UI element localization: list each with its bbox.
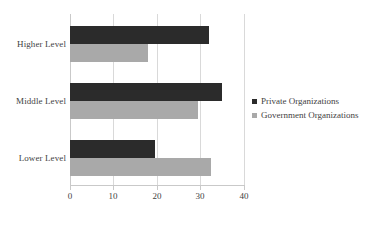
bar-middle-level-government xyxy=(70,101,198,119)
category-axis-labels: Higher Level Middle Level Lower Level xyxy=(0,14,66,185)
bar-middle-level-private xyxy=(70,83,222,101)
category-label-higher-level: Higher Level xyxy=(0,39,66,49)
legend-label-private: Private Organizations xyxy=(261,96,339,107)
xtick-label-0: 0 xyxy=(58,191,82,202)
legend-entry-government: Government Organizations xyxy=(252,109,359,121)
bar-lower-level-government xyxy=(70,158,211,176)
bar-group-higher-level xyxy=(70,26,244,62)
xtick-label-30: 30 xyxy=(188,191,212,202)
bar-group-middle-level xyxy=(70,83,244,119)
axis-tick-10 xyxy=(113,185,114,190)
category-label-lower-level: Lower Level xyxy=(0,153,66,163)
legend-swatch-icon-private xyxy=(252,99,257,104)
axis-tick-0 xyxy=(70,185,71,190)
xtick-label-10: 10 xyxy=(101,191,125,202)
chart-legend: Private Organizations Government Organiz… xyxy=(252,95,359,123)
legend-label-government: Government Organizations xyxy=(261,110,359,121)
xtick-label-40: 40 xyxy=(232,191,256,202)
bar-lower-level-private xyxy=(70,140,155,158)
bar-group-lower-level xyxy=(70,140,244,176)
legend-entry-private: Private Organizations xyxy=(252,95,359,107)
plot-area xyxy=(70,14,244,185)
gridline-40 xyxy=(244,14,245,185)
xtick-label-20: 20 xyxy=(145,191,169,202)
axis-tick-40 xyxy=(244,185,245,190)
bar-higher-level-private xyxy=(70,26,209,44)
axis-tick-30 xyxy=(200,185,201,190)
axis-tick-20 xyxy=(157,185,158,190)
legend-swatch-icon-government xyxy=(252,113,257,118)
bar-higher-level-government xyxy=(70,44,148,62)
category-label-middle-level: Middle Level xyxy=(0,96,66,106)
bar-chart-figure: Higher Level Middle Level Lower Level 0 … xyxy=(0,0,383,225)
